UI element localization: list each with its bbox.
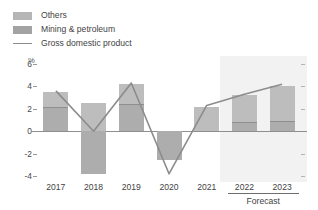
bar-mining-swatch-icon xyxy=(13,26,32,34)
y-tick-label: 6 xyxy=(10,59,32,69)
chart-legend: Others Mining & petroleum Gross domestic… xyxy=(13,9,132,51)
plot-area: 6420-2-4 xyxy=(37,64,301,176)
legend-item-mining: Mining & petroleum xyxy=(13,23,132,36)
legend-label-others: Others xyxy=(41,11,67,20)
y-tick-label: 0 xyxy=(10,126,32,136)
y-tick-mark-right xyxy=(301,176,305,177)
forecast-label: Forecast xyxy=(247,196,280,206)
y-tick-mark-right xyxy=(301,154,305,155)
x-tick-label-2019: 2019 xyxy=(122,182,141,192)
forecast-bracket xyxy=(228,193,299,194)
legend-item-gdp: Gross domestic product xyxy=(13,37,132,50)
x-tick-label-2021: 2021 xyxy=(197,182,216,192)
x-tick-label-2017: 2017 xyxy=(46,182,65,192)
legend-label-gdp: Gross domestic product xyxy=(41,39,132,48)
y-tick-label: -4 xyxy=(10,171,32,181)
y-tick-mark xyxy=(33,176,37,177)
y-tick-label: 4 xyxy=(10,81,32,91)
y-tick-label: 2 xyxy=(10,104,32,114)
x-tick-label-2020: 2020 xyxy=(159,182,178,192)
x-tick-label-2023: 2023 xyxy=(273,182,292,192)
gdp-line-path xyxy=(56,83,282,174)
bar-others-swatch-icon xyxy=(13,12,32,20)
y-tick-mark-right xyxy=(301,64,305,65)
y-tick-label: -2 xyxy=(10,149,32,159)
x-tick-label-2022: 2022 xyxy=(235,182,254,192)
y-tick-mark-right xyxy=(301,109,305,110)
legend-item-others: Others xyxy=(13,9,132,22)
chart-root: Others Mining & petroleum Gross domestic… xyxy=(0,0,318,210)
x-tick-label-2018: 2018 xyxy=(84,182,103,192)
y-tick-mark-right xyxy=(301,86,305,87)
gdp-line-swatch-icon xyxy=(13,43,32,44)
gdp-line-series xyxy=(37,64,301,176)
legend-label-mining: Mining & petroleum xyxy=(41,25,115,34)
